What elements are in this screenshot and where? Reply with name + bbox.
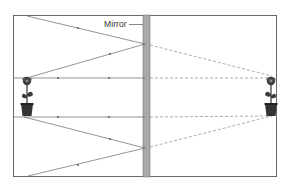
- virtual-bottom-ray: [150, 116, 272, 147]
- arrow-marker: [57, 116, 59, 118]
- mirror: [143, 15, 150, 177]
- virtual-rays: [150, 45, 272, 147]
- virtual-horizontal-bottom-ray: [150, 116, 272, 117]
- arrow-marker: [77, 164, 79, 166]
- mirror-label: Mirror: [104, 19, 127, 29]
- real-flower-icon: [21, 77, 34, 116]
- incident-top-ray: [27, 16, 145, 44]
- incident-bottom-ray: [24, 117, 145, 148]
- arrow-marker: [109, 53, 111, 55]
- arrow-marker: [77, 27, 79, 29]
- arrow-marker: [108, 116, 110, 118]
- arrow-marker: [109, 138, 111, 140]
- real-rays: [14, 16, 145, 176]
- arrow-marker: [108, 77, 110, 79]
- reflected-top-ray: [30, 44, 145, 77]
- mirror-ray-diagram: [0, 0, 298, 191]
- reflected-bottom-ray: [28, 148, 145, 176]
- virtual-flower-image-icon: [265, 77, 278, 116]
- virtual-top-ray: [150, 45, 272, 76]
- arrow-marker: [57, 77, 59, 79]
- ray-arrows: [57, 27, 111, 166]
